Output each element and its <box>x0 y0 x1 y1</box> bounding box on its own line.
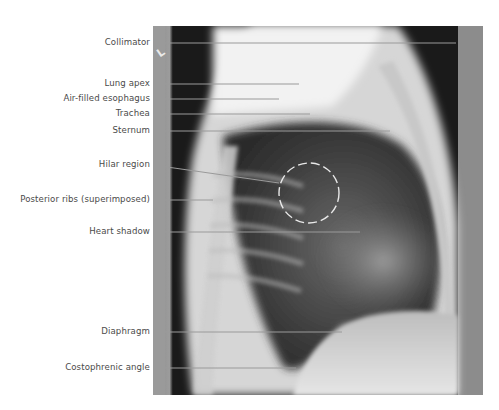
label-costophrenic-angle: Costophrenic angle <box>65 362 150 373</box>
label-lung-apex: Lung apex <box>104 78 150 89</box>
chest-xray-image: L <box>153 26 483 395</box>
label-heart-shadow: Heart shadow <box>89 226 150 237</box>
label-trachea: Trachea <box>116 108 150 119</box>
label-air-filled-esophagus: Air-filled esophagus <box>63 93 150 104</box>
label-hilar-region: Hilar region <box>99 159 150 170</box>
label-diaphragm: Diaphragm <box>101 326 150 337</box>
label-posterior-ribs: Posterior ribs (superimposed) <box>20 194 150 205</box>
label-collimator: Collimator <box>105 37 150 48</box>
label-sternum: Sternum <box>113 125 150 136</box>
